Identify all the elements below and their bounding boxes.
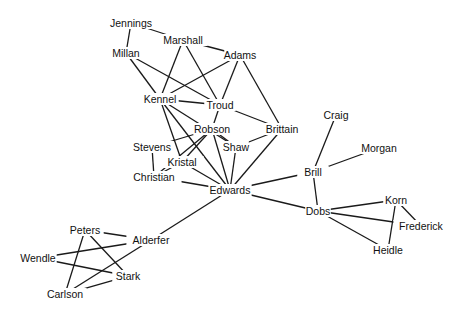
edge-marshall-kennel — [160, 40, 183, 99]
node-label: Christian — [133, 171, 175, 183]
node-peters: Peters — [66, 224, 103, 236]
node-jennings: Jennings — [106, 17, 155, 29]
node-heidle: Heidle — [369, 244, 406, 256]
node-kristal: Kristal — [160, 156, 203, 168]
network-graph-svg: JenningsMarshallMillanAdamsKennelTroudRo… — [0, 0, 461, 315]
node-label: Robson — [194, 123, 230, 135]
node-brill: Brill — [297, 166, 329, 178]
edge-adams-brittain — [240, 55, 282, 129]
node-carlson: Carlson — [43, 288, 86, 300]
node-label: Alderfer — [133, 234, 170, 246]
node-label: Craig — [323, 109, 348, 121]
node-stevens: Stevens — [130, 141, 173, 153]
node-label: Stevens — [133, 141, 171, 153]
node-label: Heidle — [373, 244, 403, 256]
node-label: Kristal — [167, 156, 196, 168]
node-stark: Stark — [112, 270, 144, 282]
node-label: Edwards — [210, 184, 251, 196]
node-craig: Craig — [320, 109, 352, 121]
node-label: Marshall — [163, 34, 203, 46]
node-label: Dobs — [306, 205, 331, 217]
node-label: Kennel — [144, 93, 177, 105]
node-label: Brittain — [266, 123, 299, 135]
node-kennel: Kennel — [141, 93, 178, 105]
node-millan: Millan — [107, 47, 144, 59]
node-korn: Korn — [383, 194, 409, 206]
node-label: Peters — [70, 224, 100, 236]
node-robson: Robson — [193, 123, 230, 135]
node-alderfer: Alderfer — [126, 234, 175, 246]
edge-adams-troud — [220, 55, 240, 105]
node-marshall: Marshall — [158, 34, 207, 46]
node-edwards: Edwards — [208, 184, 251, 196]
node-label: Carlson — [47, 288, 83, 300]
node-morgan: Morgan — [360, 142, 397, 154]
node-frederick: Frederick — [393, 220, 448, 232]
node-brittain: Brittain — [257, 123, 306, 135]
edge-alderfer-carlson — [65, 240, 151, 294]
node-christian: Christian — [126, 171, 181, 183]
node-label: Morgan — [361, 142, 397, 154]
node-label: Adams — [224, 49, 257, 61]
node-label: Stark — [116, 270, 141, 282]
node-label: Frederick — [399, 220, 444, 232]
network-diagram: JenningsMarshallMillanAdamsKennelTroudRo… — [0, 0, 461, 315]
node-dobs: Dobs — [305, 205, 331, 217]
node-label: Shaw — [223, 141, 250, 153]
node-label: Wendle — [20, 252, 56, 264]
edges-layer — [38, 23, 421, 294]
node-adams: Adams — [224, 49, 257, 61]
node-label: Jennings — [110, 17, 152, 29]
node-label: Millan — [112, 47, 140, 59]
node-troud: Troud — [204, 99, 236, 111]
node-label: Korn — [385, 194, 407, 206]
node-label: Troud — [206, 99, 233, 111]
node-shaw: Shaw — [223, 141, 250, 153]
node-wendle: Wendle — [19, 252, 56, 264]
node-label: Brill — [304, 166, 322, 178]
edge-peters-carlson — [65, 230, 85, 294]
edge-brill-craig — [313, 115, 336, 172]
edge-edwards-alderfer — [151, 190, 230, 240]
